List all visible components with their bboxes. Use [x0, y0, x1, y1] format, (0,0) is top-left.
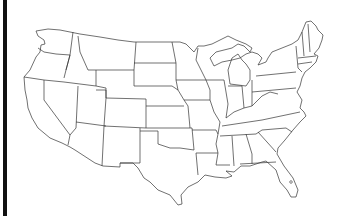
- border-or-id: [64, 55, 70, 78]
- border-wa-id: [66, 32, 73, 70]
- border-ut-az: [76, 122, 106, 126]
- border-vt-nh: [302, 32, 304, 56]
- border-ms-al: [232, 136, 234, 166]
- border-ut-co: [96, 86, 106, 126]
- border-pa-south: [252, 88, 296, 92]
- border-wv-va: [252, 92, 278, 106]
- border-co-nm: [104, 126, 146, 128]
- border-dakotas-mn: [172, 42, 178, 90]
- border-mt-dakotas: [134, 42, 136, 86]
- border-id-mt: [78, 36, 96, 86]
- border-ok-ar: [192, 128, 194, 150]
- border-nv-ut: [70, 86, 78, 135]
- border-il-in: [224, 80, 228, 118]
- border-nh-me: [308, 24, 310, 52]
- border-mo-ar: [192, 130, 218, 134]
- border-wy-co: [96, 90, 146, 99]
- border-az-nm: [102, 126, 104, 166]
- border-ky-tn: [222, 120, 262, 126]
- border-sd-ne: [134, 86, 178, 90]
- border-tx-la: [196, 153, 198, 175]
- border-in-oh: [228, 86, 244, 108]
- border-va-nc: [262, 112, 300, 120]
- lake-okeechobee: [290, 181, 293, 184]
- border-tx-ok: [140, 131, 194, 150]
- border-ma: [298, 56, 316, 58]
- border-tn-south: [220, 130, 262, 136]
- border-ct-ri: [298, 62, 312, 64]
- border-mo-west: [178, 90, 190, 128]
- border-al-ga: [246, 134, 252, 164]
- border-wi-mn: [196, 48, 206, 80]
- us-outline-map: [0, 0, 345, 216]
- michigan-lower: [228, 54, 250, 86]
- border-ky-oh: [226, 106, 252, 118]
- border-nm-tx: [120, 128, 140, 163]
- border-ca-nv: [44, 80, 70, 145]
- border-id-south: [64, 82, 96, 86]
- border-nc-sc: [262, 128, 292, 132]
- border-ny-ne: [296, 46, 302, 72]
- border-wa-or: [38, 48, 70, 55]
- border-ga-sc: [258, 132, 276, 152]
- border-pa-ny: [256, 72, 296, 76]
